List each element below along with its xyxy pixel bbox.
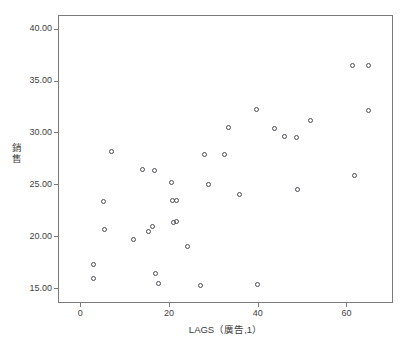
- data-point-marker: [152, 168, 157, 173]
- y-axis-tick-labels: 15.0020.0025.0030.0035.0040.00: [0, 0, 52, 344]
- data-point-marker: [169, 180, 174, 185]
- data-point-marker: [366, 108, 371, 113]
- y-axis-tick-label: 15.00: [29, 284, 52, 293]
- y-axis-tick-label: 25.00: [29, 180, 52, 189]
- data-point-marker: [102, 227, 107, 232]
- data-point-marker: [294, 135, 299, 140]
- data-point-marker: [156, 281, 161, 286]
- data-point-marker: [131, 237, 136, 242]
- data-point-marker: [237, 192, 242, 197]
- data-point-marker: [272, 126, 277, 131]
- data-point-marker: [308, 118, 313, 123]
- data-point-marker: [366, 63, 371, 68]
- data-point-marker: [91, 262, 96, 267]
- y-axis-tick-mark: [54, 29, 58, 30]
- y-axis-tick-mark: [54, 288, 58, 289]
- plot-data-area: [58, 15, 393, 303]
- y-axis-tick-label: 40.00: [29, 24, 52, 33]
- x-axis-tick-label: 40: [238, 309, 278, 318]
- data-point-marker: [198, 283, 203, 288]
- data-point-marker: [295, 187, 300, 192]
- data-point-marker: [255, 282, 260, 287]
- x-axis-tick-mark: [346, 303, 347, 307]
- data-point-marker: [350, 63, 355, 68]
- data-point-marker: [226, 125, 231, 130]
- y-axis-tick-mark: [54, 132, 58, 133]
- y-axis-tick-mark: [54, 81, 58, 82]
- y-axis-tick-label: 30.00: [29, 128, 52, 137]
- data-point-marker: [174, 219, 179, 224]
- scatter-plot-figure: 15.0020.0025.0030.0035.0040.00 LAGS（廣告,1…: [0, 0, 409, 344]
- data-point-marker: [254, 107, 259, 112]
- data-point-marker: [101, 199, 106, 204]
- x-axis-tick-label: 0: [60, 309, 100, 318]
- y-axis-tick-label: 35.00: [29, 76, 52, 85]
- x-axis-tick-label: 20: [149, 309, 189, 318]
- y-axis-tick-mark: [54, 184, 58, 185]
- data-point-marker: [282, 134, 287, 139]
- data-point-marker: [91, 276, 96, 281]
- x-axis-tick-mark: [80, 303, 81, 307]
- data-point-marker: [140, 167, 145, 172]
- data-point-marker: [206, 182, 211, 187]
- data-point-marker: [222, 152, 227, 157]
- data-point-marker: [146, 229, 151, 234]
- x-axis-tick-mark: [258, 303, 259, 307]
- y-axis-tick-label: 20.00: [29, 232, 52, 241]
- data-point-marker: [352, 173, 357, 178]
- data-point-marker: [185, 244, 190, 249]
- data-point-marker: [202, 152, 207, 157]
- y-axis-tick-mark: [54, 236, 58, 237]
- y-axis-title: 銷售: [10, 143, 24, 164]
- x-axis-tick-mark: [169, 303, 170, 307]
- x-axis-title: LAGS（廣告,1）: [58, 324, 393, 336]
- data-point-marker: [174, 198, 179, 203]
- data-point-marker: [150, 224, 155, 229]
- x-axis-tick-label: 60: [326, 309, 366, 318]
- data-point-marker: [109, 149, 114, 154]
- data-point-marker: [153, 271, 158, 276]
